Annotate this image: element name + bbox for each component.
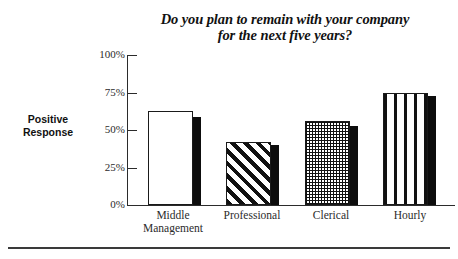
y-tick-mark-25 [128, 168, 137, 169]
x-category-label-hourly: Hourly [367, 209, 453, 222]
x-category-label-professional: Professional [205, 209, 299, 222]
bar-group-clerical [305, 54, 357, 205]
bar-group-hourly [383, 54, 435, 205]
y-tick-label-75: 75% [79, 86, 125, 98]
y-tick-mark-0 [128, 205, 137, 206]
y-tick-label-0: 0% [79, 198, 125, 210]
x-axis-spine [127, 205, 455, 206]
bar-shadow-professional [270, 145, 279, 205]
bar-group-professional [226, 54, 278, 205]
bar-shadow-clerical [349, 126, 358, 206]
y-tick-100: 100% [74, 55, 137, 56]
y-tick-label-100: 100% [79, 48, 125, 60]
y-tick-0: 0% [74, 205, 137, 206]
bar-middle-management[interactable] [148, 111, 193, 206]
bar-shadow-middle-management [192, 117, 201, 206]
y-tick-mark-100 [128, 55, 137, 56]
y-tick-label-50: 50% [79, 123, 125, 135]
bar-professional[interactable] [226, 142, 271, 205]
y-tick-50: 50% [74, 130, 137, 131]
x-category-label-middle-management-line-2: Management [130, 222, 216, 235]
y-tick-label-25: 25% [79, 161, 125, 173]
x-category-label-clerical: Clerical [288, 209, 374, 222]
x-category-label-hourly-line-1: Hourly [367, 209, 453, 222]
y-tick-25: 25% [74, 168, 137, 169]
x-category-label-clerical-line-1: Clerical [288, 209, 374, 222]
x-category-label-middle-management: Middle Management [130, 209, 216, 235]
bar-shadow-hourly [427, 96, 436, 206]
bar-group-middle-management [148, 54, 200, 205]
y-tick-75: 75% [74, 93, 137, 94]
y-tick-mark-50 [128, 130, 137, 131]
bar-clerical[interactable] [305, 121, 350, 205]
x-category-label-middle-management-line-1: Middle [130, 209, 216, 222]
y-tick-mark-75 [128, 93, 137, 94]
x-category-label-professional-line-1: Professional [205, 209, 299, 222]
bar-hourly[interactable] [383, 93, 428, 206]
plot-area: 100% 75% 50% 25% 0% Middle Management [0, 0, 458, 259]
bottom-divider-rule [8, 247, 450, 249]
